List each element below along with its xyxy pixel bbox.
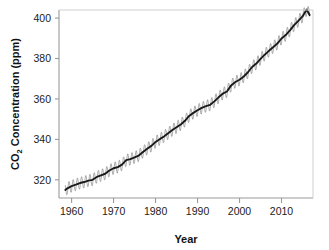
y-axis-title-prefix: CO [9, 153, 21, 170]
y-axis-tick-label: 320 [33, 174, 51, 186]
x-axis-tick-label: 1960 [60, 205, 84, 217]
x-axis-ticks: 196019701980199020002010 [60, 198, 293, 217]
x-axis-tick-label: 2000 [228, 205, 252, 217]
x-axis-title: Year [174, 233, 198, 245]
y-axis-tick-label: 380 [33, 52, 51, 64]
figure-container: 320340360380400 196019701980199020002010… [0, 0, 329, 250]
x-axis-tick-label: 1970 [102, 205, 126, 217]
y-axis-tick-label: 340 [33, 133, 51, 145]
y-axis-ticks: 320340360380400 [33, 12, 59, 186]
x-axis-tick-label: 1980 [144, 205, 168, 217]
y-axis-tick-label: 400 [33, 12, 51, 24]
co2-concentration-line-chart: 320340360380400 196019701980199020002010… [0, 0, 329, 250]
y-axis-title-suffix: Concentration (ppm) [9, 38, 21, 150]
x-axis-tick-label: 2010 [270, 205, 294, 217]
x-axis-tick-label: 1990 [186, 205, 210, 217]
y-axis-tick-label: 360 [33, 93, 51, 105]
y-axis-title-group: CO2 Concentration (ppm) [9, 38, 24, 170]
plot-area-background [59, 10, 313, 198]
y-axis-title: CO2 Concentration (ppm) [9, 38, 24, 170]
